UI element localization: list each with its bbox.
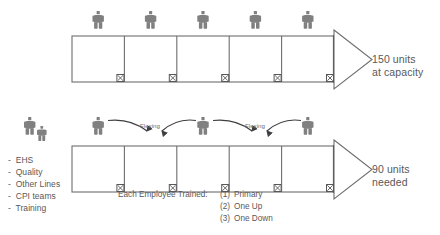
resource-pool-item-training: - Training [8, 203, 46, 214]
resource-pool-item-quality: - Quality [8, 167, 43, 178]
resource-pool-item-cpi-teams: - CPI teams [8, 191, 56, 202]
training-note-text-one-down: One Down [234, 213, 273, 224]
top-line-output-label-line1: 150 units [372, 54, 416, 65]
diagram-canvas: 150 units at capacity 90 units needed Fl… [0, 0, 440, 235]
training-note-text-primary: Primary [234, 189, 262, 200]
top-line-operators [93, 11, 314, 29]
resource-pool-item-other-lines: - Other Lines [8, 179, 60, 190]
training-note-num-2: (2) [214, 201, 230, 212]
resource-pool-figures [24, 117, 47, 141]
training-note-num-3: (3) [214, 213, 230, 224]
training-note-heading: Each Employee Trained: [118, 189, 208, 200]
bottom-line-operators [93, 117, 314, 135]
bottom-line-output-label-line1: 90 units [372, 164, 410, 175]
resource-pool-item-ehs: - EHS [8, 155, 33, 166]
top-line-output-label-line2: at capacity [372, 67, 423, 78]
flexing-label-left: Flexing [140, 120, 160, 131]
flexing-label-right: Flexing [245, 120, 265, 131]
training-note-text-one-up: One Up [234, 201, 262, 212]
bottom-line-output-label-line2: needed [372, 177, 408, 188]
training-note-num-1: (1) [214, 189, 230, 200]
